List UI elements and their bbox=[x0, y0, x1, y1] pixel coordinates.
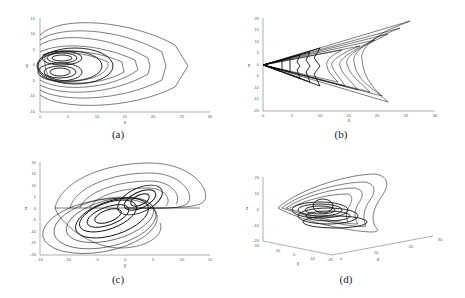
svg-text:15: 15 bbox=[208, 257, 213, 262]
panel-c: 20 15 10 5 0 -5 -10 -15 -20 -15 -10 -5 0… bbox=[0, 148, 230, 298]
caption-c: (c) bbox=[98, 273, 138, 285]
svg-text:30: 30 bbox=[438, 237, 443, 242]
caption-a: (a) bbox=[98, 128, 138, 140]
svg-text:10: 10 bbox=[180, 257, 185, 262]
svg-text:-15: -15 bbox=[29, 109, 36, 114]
caption-d: (d) bbox=[326, 273, 366, 285]
svg-text:10: 10 bbox=[318, 113, 323, 118]
svg-text:0: 0 bbox=[34, 206, 37, 211]
svg-text:-10: -10 bbox=[253, 223, 260, 228]
svg-text:10: 10 bbox=[95, 114, 100, 119]
svg-text:20: 20 bbox=[32, 160, 37, 165]
svg-text:-10: -10 bbox=[30, 229, 37, 234]
svg-text:20: 20 bbox=[375, 113, 380, 118]
svg-text:-20: -20 bbox=[327, 257, 334, 262]
svg-text:15: 15 bbox=[31, 16, 36, 21]
svg-text:10: 10 bbox=[374, 250, 379, 255]
svg-text:5: 5 bbox=[34, 194, 37, 199]
svg-text:y: y bbox=[297, 260, 300, 266]
svg-text:-15: -15 bbox=[253, 96, 260, 101]
svg-text:25: 25 bbox=[180, 114, 185, 119]
chart-a-plot: 15 10 5 0 -5 -10 -15 0 5 10 15 20 25 30 … bbox=[0, 0, 230, 148]
panel-d: 20 10 0 -10 -20 20 10 0 -10 -20 0 10 20 … bbox=[230, 148, 465, 298]
svg-text:x: x bbox=[124, 119, 127, 125]
svg-text:10: 10 bbox=[32, 183, 37, 188]
svg-text:0: 0 bbox=[257, 62, 260, 67]
svg-text:30: 30 bbox=[208, 114, 213, 119]
svg-text:-20: -20 bbox=[30, 252, 37, 257]
svg-text:20: 20 bbox=[255, 243, 260, 248]
svg-text:x: x bbox=[377, 256, 380, 262]
svg-text:5: 5 bbox=[291, 113, 294, 118]
svg-text:-10: -10 bbox=[253, 85, 260, 90]
svg-text:-5: -5 bbox=[31, 78, 35, 83]
svg-text:20: 20 bbox=[255, 16, 260, 21]
svg-text:10: 10 bbox=[255, 39, 260, 44]
svg-text:20: 20 bbox=[151, 114, 156, 119]
svg-text:10: 10 bbox=[31, 31, 36, 36]
svg-text:10: 10 bbox=[276, 248, 281, 253]
svg-text:25: 25 bbox=[404, 113, 409, 118]
panel-a: 15 10 5 0 -5 -10 -15 0 5 10 15 20 25 30 … bbox=[0, 0, 230, 148]
svg-text:15: 15 bbox=[32, 171, 37, 176]
caption-b: (b) bbox=[321, 128, 361, 140]
svg-text:0: 0 bbox=[262, 113, 265, 118]
svg-text:-5: -5 bbox=[95, 257, 99, 262]
svg-text:-10: -10 bbox=[309, 256, 316, 261]
svg-text:5: 5 bbox=[257, 50, 260, 55]
svg-text:5: 5 bbox=[67, 114, 70, 119]
svg-text:20: 20 bbox=[255, 175, 260, 180]
svg-text:-20: -20 bbox=[253, 108, 260, 113]
svg-text:-5: -5 bbox=[32, 217, 36, 222]
svg-text:y: y bbox=[124, 262, 127, 268]
panel-b: 20 15 10 5 0 -5 -10 -15 -20 0 5 10 15 20… bbox=[230, 0, 465, 148]
svg-text:y: y bbox=[26, 62, 29, 68]
svg-text:-5: -5 bbox=[255, 73, 259, 78]
svg-text:z: z bbox=[248, 62, 251, 68]
svg-text:0: 0 bbox=[340, 256, 343, 261]
svg-text:0: 0 bbox=[257, 207, 260, 212]
svg-text:-10: -10 bbox=[29, 93, 36, 98]
chart-b-plot: 20 15 10 5 0 -5 -10 -15 -20 0 5 10 15 20… bbox=[230, 0, 465, 148]
svg-text:-15: -15 bbox=[30, 240, 37, 245]
svg-text:-10: -10 bbox=[65, 257, 72, 262]
svg-text:-15: -15 bbox=[37, 257, 44, 262]
svg-text:0: 0 bbox=[39, 114, 42, 119]
svg-text:5: 5 bbox=[152, 257, 155, 262]
svg-text:0: 0 bbox=[33, 62, 36, 67]
svg-text:30: 30 bbox=[433, 113, 438, 118]
svg-text:10: 10 bbox=[255, 191, 260, 196]
svg-text:z: z bbox=[25, 205, 28, 211]
svg-text:15: 15 bbox=[255, 27, 260, 32]
svg-text:0: 0 bbox=[293, 252, 296, 257]
svg-text:z: z bbox=[246, 205, 249, 211]
svg-text:5: 5 bbox=[33, 47, 36, 52]
svg-text:20: 20 bbox=[409, 244, 414, 249]
